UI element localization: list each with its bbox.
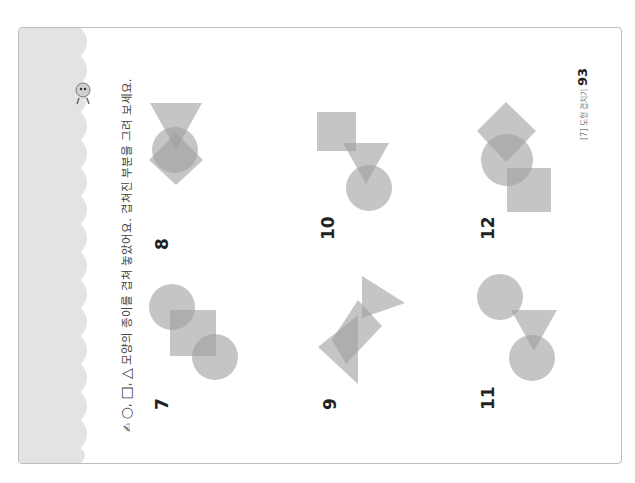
- problem-7-shapes: [149, 284, 238, 380]
- overlap-shapes-canvas: [0, 0, 635, 483]
- problem-10-shapes: [317, 112, 392, 211]
- problem-8-shapes: [149, 103, 203, 185]
- problem-9-shapes: [318, 276, 405, 384]
- problem-11-shapes: [477, 274, 557, 381]
- problem-12-shapes: [477, 102, 551, 212]
